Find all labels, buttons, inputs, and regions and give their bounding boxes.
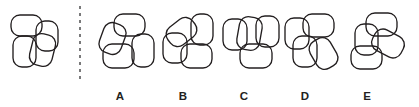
option-c[interactable]: C [223,15,279,102]
puzzle-canvas: ABCDE [0,0,419,107]
option-label-b[interactable]: B [179,90,187,102]
option-c-shape-2 [235,15,263,51]
figure-matching-puzzle: ABCDE [0,0,419,107]
option-d[interactable]: D [285,14,341,102]
option-a-shape-2 [96,20,128,57]
option-label-a[interactable]: A [116,90,124,102]
option-b[interactable]: B [163,14,213,102]
option-label-c[interactable]: C [240,90,248,102]
answer-options: ABCDE [96,13,407,102]
option-b-shape-2 [191,14,213,45]
option-label-e[interactable]: E [363,90,371,102]
option-e[interactable]: E [351,13,408,102]
option-d-shape-3 [293,36,317,67]
reference-figure [11,15,58,68]
option-a-shape-3 [103,44,134,68]
option-d-shape-2 [303,14,334,37]
option-label-d[interactable]: D [301,90,309,102]
option-a-shape-1 [114,14,145,36]
option-a-shape-4 [132,34,154,67]
option-e-shape-3 [368,26,407,61]
option-a[interactable]: A [96,14,154,102]
option-b-shape-1 [163,14,201,50]
option-b-shape-4 [181,44,212,68]
